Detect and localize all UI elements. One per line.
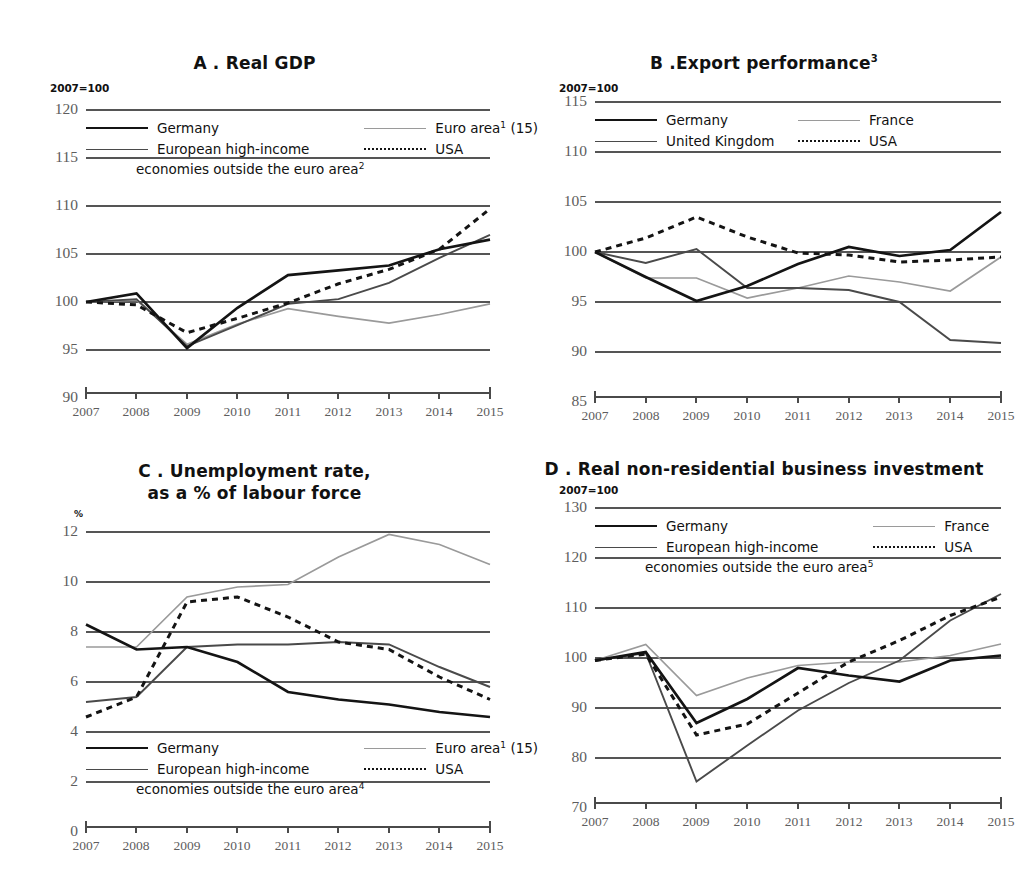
svg-text:2012: 2012 — [836, 408, 863, 423]
svg-text:2008: 2008 — [633, 408, 660, 423]
legend-swatch-euro-area — [364, 128, 426, 129]
panel-b-export-performance: B .Export performance3 2007=100 115 110 … — [509, 0, 1019, 440]
legend-swatch-france — [873, 526, 935, 527]
panel-d-legend: Germany France European high-income USA … — [595, 518, 1001, 575]
svg-text:115: 115 — [564, 92, 587, 109]
legend-entry-germany: Germany — [86, 740, 364, 756]
svg-text:2012: 2012 — [325, 404, 352, 419]
panel-a-ytick-labels: 120 115 110 105 100 95 90 — [55, 100, 79, 405]
legend-entry-united-kingdom: United Kingdom — [595, 133, 798, 149]
panel-d-business-investment: D . Real non-residential business invest… — [509, 440, 1019, 879]
svg-text:2010: 2010 — [734, 814, 761, 829]
svg-text:130: 130 — [564, 498, 588, 515]
legend-swatch-germany — [86, 747, 148, 749]
svg-text:80: 80 — [572, 748, 588, 765]
svg-text:2014: 2014 — [937, 408, 964, 423]
legend-entry-european-high-income: European high-income — [86, 141, 364, 157]
svg-text:100: 100 — [564, 648, 588, 665]
svg-text:2013: 2013 — [886, 814, 913, 829]
panel-b-title: B .Export performance3 — [509, 52, 1019, 74]
svg-text:100: 100 — [55, 292, 79, 309]
legend-swatch-european-high-income — [86, 769, 148, 770]
series-line-euro-area-15 — [86, 535, 490, 648]
svg-text:2014: 2014 — [426, 838, 453, 853]
svg-text:2010: 2010 — [224, 838, 251, 853]
svg-text:2015: 2015 — [477, 404, 504, 419]
svg-text:2013: 2013 — [376, 838, 403, 853]
svg-text:2011: 2011 — [275, 404, 302, 419]
svg-text:110: 110 — [564, 598, 587, 615]
series-line-usa — [86, 597, 490, 717]
legend-label-usa: USA — [944, 539, 972, 555]
svg-text:2007: 2007 — [582, 814, 609, 829]
legend-swatch-germany — [595, 525, 657, 527]
series-line-germany — [595, 652, 1001, 723]
panel-b-ytick-labels: 115 110 105 100 95 90 85 — [564, 92, 588, 409]
legend-swatch-usa — [798, 140, 860, 142]
legend-swatch-germany — [86, 127, 148, 129]
svg-text:2009: 2009 — [174, 404, 201, 419]
svg-text:100: 100 — [564, 242, 588, 259]
legend-entry-germany: Germany — [595, 112, 798, 128]
svg-text:2008: 2008 — [123, 838, 150, 853]
legend-swatch-european-high-income — [86, 149, 148, 150]
panel-a-real-gdp: A . Real GDP 2007=100 120 115 110 105 — [0, 0, 509, 440]
svg-text:95: 95 — [572, 292, 588, 309]
panel-c-xtick-labels: 2007 2008 2009 2010 2011 2012 2013 2014 … — [73, 838, 504, 853]
svg-text:2015: 2015 — [988, 408, 1015, 423]
panel-c-unemployment-rate: C . Unemployment rate,as a % of labour f… — [0, 440, 509, 879]
svg-text:110: 110 — [55, 196, 78, 213]
legend-swatch-usa — [364, 148, 426, 150]
panel-b-xaxis — [595, 391, 1001, 403]
svg-text:2012: 2012 — [325, 838, 352, 853]
svg-text:105: 105 — [564, 192, 588, 209]
legend-label-european-high-income: European high-income — [157, 761, 309, 777]
panel-d-xtick-labels: 2007 2008 2009 2010 2011 2012 2013 2014 … — [582, 814, 1015, 829]
svg-text:2013: 2013 — [376, 404, 403, 419]
svg-text:115: 115 — [55, 148, 78, 165]
panel-d-axis-unit: 2007=100 — [559, 484, 618, 496]
svg-text:2015: 2015 — [477, 838, 504, 853]
series-line-france — [595, 252, 1001, 298]
svg-text:12: 12 — [63, 522, 79, 539]
svg-text:85: 85 — [572, 392, 588, 409]
panel-b-legend: Germany France United Kingdom USA — [595, 112, 1001, 149]
panel-a-title: A . Real GDP — [0, 52, 509, 74]
svg-text:2007: 2007 — [582, 408, 609, 423]
panel-c-legend: Germany Euro area1 (15) European high-in… — [86, 740, 490, 797]
svg-text:120: 120 — [55, 100, 79, 117]
svg-text:2015: 2015 — [988, 814, 1015, 829]
svg-text:2010: 2010 — [224, 404, 251, 419]
legend-label-usa: USA — [435, 761, 463, 777]
legend-entry-european-high-income: European high-income — [595, 539, 873, 555]
svg-text:90: 90 — [572, 698, 588, 715]
series-line-germany — [86, 240, 490, 348]
series-line-euro-area-15 — [86, 300, 490, 344]
svg-text:2009: 2009 — [683, 408, 710, 423]
panel-d-ytick-labels: 130 120 110 100 90 80 70 — [564, 498, 588, 815]
svg-text:2013: 2013 — [886, 408, 913, 423]
legend-label-germany: Germany — [157, 120, 219, 136]
svg-text:2008: 2008 — [123, 404, 150, 419]
svg-text:2007: 2007 — [73, 838, 100, 853]
svg-text:90: 90 — [63, 388, 79, 405]
four-panel-line-chart-figure: A . Real GDP 2007=100 120 115 110 105 — [0, 0, 1019, 879]
panel-a-legend: Germany Euro area1 (15) European high-in… — [86, 120, 490, 177]
legend-continuation-d: economies outside the euro area5 — [595, 559, 873, 575]
svg-text:2011: 2011 — [785, 814, 812, 829]
legend-swatch-usa — [364, 768, 426, 770]
svg-text:2009: 2009 — [174, 838, 201, 853]
legend-label-germany: Germany — [666, 112, 728, 128]
panel-b-xtick-labels: 2007 2008 2009 2010 2011 2012 2013 2014 … — [582, 408, 1015, 423]
panel-a-xtick-labels: 2007 2008 2009 2010 2011 2012 2013 2014 … — [73, 404, 504, 419]
panel-c-title: C . Unemployment rate,as a % of labour f… — [0, 460, 509, 505]
legend-label-usa: USA — [435, 141, 463, 157]
legend-swatch-germany — [595, 119, 657, 121]
panel-c-axis-unit: % — [74, 509, 83, 519]
legend-label-usa: USA — [869, 133, 897, 149]
legend-entry-usa: USA — [873, 539, 1001, 555]
panel-d-series-group — [595, 594, 1001, 782]
svg-text:105: 105 — [55, 244, 79, 261]
legend-entry-germany: Germany — [86, 120, 364, 136]
svg-text:2009: 2009 — [683, 814, 710, 829]
